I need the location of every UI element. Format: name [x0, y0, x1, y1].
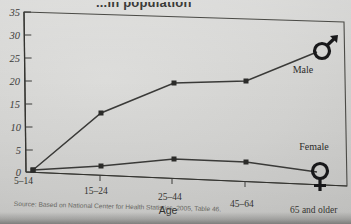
y-axis-labels: 35 30 25 20 15 10 5 0 [9, 7, 22, 178]
y-tick-label: 20 [10, 76, 21, 87]
line-chart-plot: 35 30 25 20 15 10 5 0 5–14 15–24 25–44 4… [0, 0, 351, 224]
y-tick-label: 15 [10, 99, 21, 110]
page-edge-shadow [0, 212, 351, 224]
y-tick-label: 10 [11, 122, 22, 133]
male-symbol-icon [315, 35, 339, 59]
series-female [31, 157, 318, 173]
female-symbol-icon [313, 164, 328, 192]
series-label-male: Male [293, 64, 314, 75]
data-point-female-25-44 [172, 157, 177, 162]
data-point-female-15-24 [99, 164, 104, 169]
y-tick-label: 25 [10, 53, 21, 64]
data-point-male-25-44 [172, 81, 177, 86]
y-tick-label: 5 [16, 145, 21, 156]
x-tick-label-25-44: 25–44 [158, 192, 182, 202]
x-tick-label-15-24: 15–24 [84, 186, 108, 196]
data-point-male-15-24 [99, 111, 104, 116]
x-tick-label-45-64: 45–64 [230, 199, 254, 209]
x-tick-label-5-14: 5–14 [14, 176, 33, 186]
y-tick-label: 30 [9, 30, 21, 41]
series-label-female: Female [299, 141, 329, 152]
y-tick-label: 35 [9, 7, 21, 18]
data-point-female-45-64 [244, 160, 249, 165]
series-male [31, 52, 318, 173]
data-point-female-5-14 [31, 168, 36, 173]
data-point-male-45-64 [244, 79, 249, 84]
